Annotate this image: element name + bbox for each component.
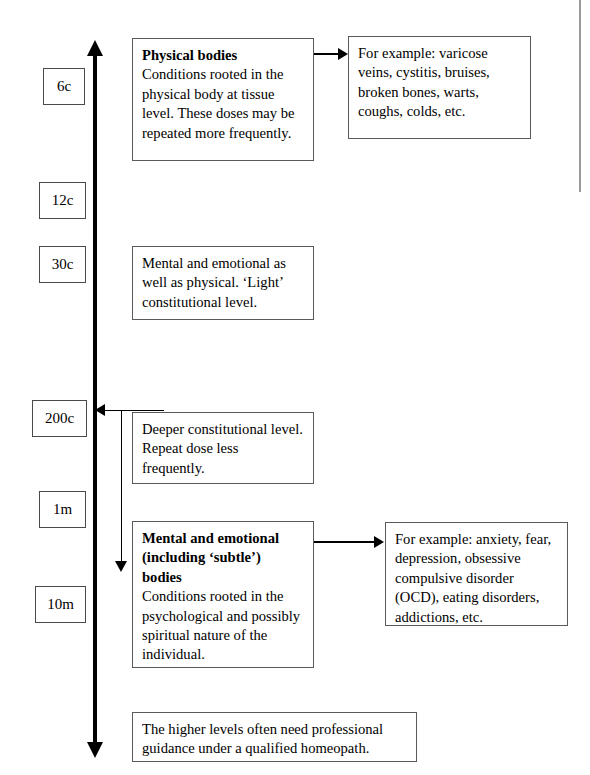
potency-box-30c: 30c: [39, 246, 86, 283]
connector-mental-to-examples: [314, 541, 378, 543]
deeper-constitutional-box: Deeper constitutional level. Repeat dose…: [132, 412, 314, 484]
feedback-connector-horizontal: [104, 410, 164, 411]
potency-label: 200c: [45, 411, 74, 426]
physical-bodies-heading: Physical bodies: [142, 46, 304, 65]
light-constitutional-box: Mental and emotional as well as physical…: [132, 246, 314, 320]
deeper-constitutional-text: Deeper constitutional level. Repeat dose…: [142, 420, 304, 478]
mental-emotional-box: Mental and emotional (including ‘subtle’…: [132, 521, 314, 668]
mental-examples-text: For example: anxiety, fear, depression, …: [395, 530, 558, 627]
footer-note-box: The higher levels often need professiona…: [132, 712, 417, 762]
potency-label: 10m: [47, 597, 74, 612]
physical-examples-text: For example: varicose veins, cystitis, b…: [358, 44, 521, 122]
potency-box-10m: 10m: [35, 586, 86, 623]
potency-box-6c: 6c: [43, 68, 85, 105]
potency-box-12c: 12c: [39, 182, 86, 219]
potency-label: 6c: [57, 79, 71, 94]
potency-axis-line: [93, 55, 97, 745]
mental-emotional-heading: Mental and emotional (including ‘subtle’…: [142, 529, 304, 587]
connector-mental-arrowhead: [374, 536, 384, 548]
potency-box-200c: 200c: [32, 400, 87, 437]
physical-examples-box: For example: varicose veins, cystitis, b…: [348, 36, 531, 139]
potency-label: 30c: [52, 257, 74, 272]
physical-bodies-box: Physical bodies Conditions rooted in the…: [132, 38, 314, 161]
footer-note-text: The higher levels often need professiona…: [142, 720, 407, 759]
page-edge-artifact: [579, 0, 581, 192]
potency-label: 12c: [52, 193, 74, 208]
mental-emotional-text: Conditions rooted in the psychological a…: [142, 587, 304, 665]
feedback-connector-vertical: [121, 410, 122, 562]
light-constitutional-text: Mental and emotional as well as physical…: [142, 254, 304, 312]
diagram-canvas: 6c 12c 30c 200c 1m 10m Physical bodies C…: [0, 0, 590, 775]
axis-top-arrowhead: [87, 40, 103, 56]
connector-physical-arrowhead: [338, 48, 348, 60]
axis-bottom-arrowhead: [87, 742, 103, 758]
physical-bodies-text: Conditions rooted in the physical body a…: [142, 65, 304, 143]
potency-label: 1m: [53, 502, 72, 517]
potency-box-1m: 1m: [39, 491, 86, 528]
feedback-arrowhead-down: [115, 561, 127, 572]
mental-examples-box: For example: anxiety, fear, depression, …: [385, 522, 568, 626]
